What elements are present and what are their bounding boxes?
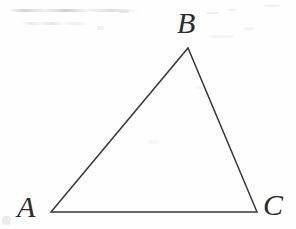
vertex-label-c: C — [263, 190, 283, 220]
triangle-figure — [0, 0, 296, 229]
vertex-label-b: B — [177, 8, 195, 38]
triangle-outline — [51, 48, 257, 212]
vertex-label-a: A — [17, 192, 35, 222]
figure-canvas: A B C — [0, 0, 296, 229]
